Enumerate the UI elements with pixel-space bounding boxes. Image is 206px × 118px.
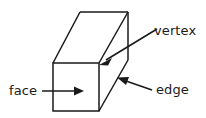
edge-leader-arrow	[117, 77, 152, 90]
face-arrow-head	[74, 87, 84, 96]
label-edge: edge	[156, 83, 189, 96]
label-vertex: vertex	[154, 24, 196, 37]
edge-front-bottom-right-to-back-bottom-right	[99, 60, 128, 111]
edge-front-top-left-to-back-top-left	[53, 12, 80, 63]
label-face: face	[9, 84, 37, 97]
edge-arrow-shaft	[126, 81, 152, 90]
edge-arrow-head	[117, 77, 129, 85]
diagram-canvas: vertex face edge	[0, 0, 206, 118]
cuboid-diagram-svg	[0, 0, 206, 118]
face-leader-arrow	[42, 87, 84, 96]
front-face-outline	[53, 63, 99, 111]
cuboid-shape	[53, 12, 128, 111]
vertex-arrow-shaft	[106, 29, 157, 60]
